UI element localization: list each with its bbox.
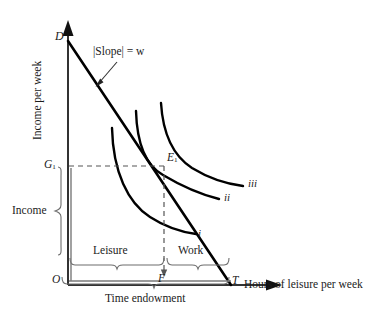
axis-baseline-rule	[69, 168, 231, 281]
leisure-brace	[70, 258, 164, 269]
x-axis-label: Hours of leisure per week	[244, 279, 363, 291]
indifference-curve-iii	[161, 103, 243, 186]
point-label-e1-sub: 1	[174, 156, 178, 164]
slope-annotation-label: |Slope| = w	[93, 46, 144, 58]
time-endowment-bracket-label: Time endowment	[105, 293, 185, 305]
point-label-e1: E1	[167, 152, 178, 164]
labor-leisure-diagram: Income per week Hours of leisure per wee…	[0, 0, 376, 314]
point-label-e1-base: E	[167, 151, 174, 163]
point-label-g1-sub: 1	[52, 163, 56, 171]
work-bracket-label: Work	[178, 245, 203, 257]
time-endowment-brace	[62, 277, 229, 288]
curve-label-ii: ii	[224, 192, 230, 203]
point-label-d: D	[55, 30, 64, 42]
slope-annotation-arrow	[96, 62, 118, 87]
point-label-g1: G1	[44, 159, 56, 171]
leisure-bracket-label: Leisure	[93, 245, 127, 257]
y-axis-label: Income per week	[32, 61, 44, 140]
y-axis	[63, 20, 74, 285]
income-bracket-label: Income	[12, 205, 46, 217]
curve-label-i: i	[198, 228, 201, 239]
origin-label: O	[52, 274, 60, 286]
income-brace	[55, 167, 61, 255]
indifference-curve-i	[112, 128, 196, 234]
equilibrium-guide-lines	[69, 166, 167, 277]
curve-label-iii: iii	[248, 178, 257, 189]
point-label-t: T	[232, 275, 238, 287]
diagram-canvas	[0, 0, 376, 314]
point-label-f: F	[158, 273, 165, 285]
